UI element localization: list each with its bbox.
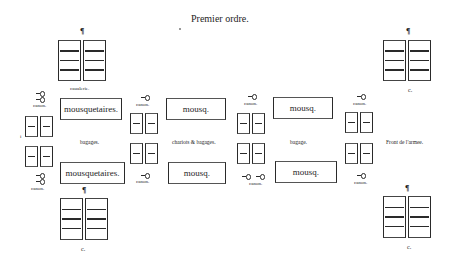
- cannon-label: canon.: [31, 186, 44, 191]
- musketeer-block-bottom-1: mousquetaires.: [60, 162, 125, 184]
- paragraph-mark-icon: ¶: [405, 184, 409, 193]
- infantry-pair-right-bottom: [345, 143, 373, 164]
- musketeer-block-top-1: mousquetaires.: [60, 98, 122, 120]
- infantry-pair-left-top: [25, 116, 53, 137]
- musketeer-block-top-2: mousq.: [166, 98, 226, 120]
- cavalry-block-bottom-left: [60, 198, 108, 240]
- cannon-label: canon.: [33, 103, 46, 108]
- cannon-label: canon.: [136, 179, 149, 184]
- musketeer-block-bottom-3: mousq.: [275, 161, 337, 183]
- cannon-label: canon.: [353, 101, 366, 106]
- cannon-icon: [36, 173, 45, 178]
- cavalry-block-top-left: [58, 40, 106, 81]
- cavalry-label-top-left: caualerie.: [70, 86, 89, 91]
- paragraph-mark-icon: ¶: [80, 27, 84, 36]
- cannon-icon: [256, 174, 265, 179]
- musketeer-block-top-3: mousq.: [273, 97, 333, 119]
- musketeer-block-bottom-2: mousq.: [168, 162, 226, 184]
- cannon-icon: [141, 95, 150, 100]
- cannon-icon: [36, 179, 45, 184]
- infantry-pair-3-bottom: [237, 143, 265, 164]
- baggage-label-center: chariots & bagages.: [172, 139, 216, 145]
- left-marker: i: [20, 134, 21, 139]
- cavalry-label-bottom-left: c.: [81, 246, 85, 252]
- baggage-label-left: bagages.: [80, 139, 99, 145]
- cannon-icon: [36, 97, 45, 102]
- cannon-label: canon.: [249, 181, 262, 186]
- infantry-pair-2-top: [130, 113, 158, 134]
- cavalry-block-top-right: [383, 40, 431, 81]
- paragraph-mark-icon: ¶: [406, 27, 410, 36]
- cavalry-block-bottom-right: [383, 196, 431, 238]
- infantry-pair-3-top: [237, 113, 265, 134]
- cavalry-label-bottom-right: c.: [407, 244, 411, 250]
- infantry-pair-right-top: [345, 112, 373, 133]
- army-front-label: Front de l'armee.: [386, 139, 423, 145]
- baggage-label-right: bagage.: [290, 139, 307, 145]
- cannon-label: canon.: [354, 180, 367, 185]
- cannon-label: canon.: [136, 102, 149, 107]
- cannon-icon: [36, 91, 45, 96]
- cavalry-label-top-right: c.: [408, 87, 412, 93]
- cannon-icon: [357, 173, 366, 178]
- diagram-title: Premier ordre.: [191, 13, 249, 24]
- stray-dot: [179, 28, 181, 30]
- cannon-icon: [248, 94, 257, 99]
- paragraph-mark-icon: ¶: [82, 186, 86, 195]
- cannon-icon: [357, 94, 366, 99]
- cannon-icon: [242, 174, 251, 179]
- cannon-label: canon.: [244, 101, 257, 106]
- cannon-icon: [141, 173, 150, 178]
- infantry-pair-2-bottom: [130, 143, 158, 164]
- infantry-pair-left-bottom: [25, 146, 53, 167]
